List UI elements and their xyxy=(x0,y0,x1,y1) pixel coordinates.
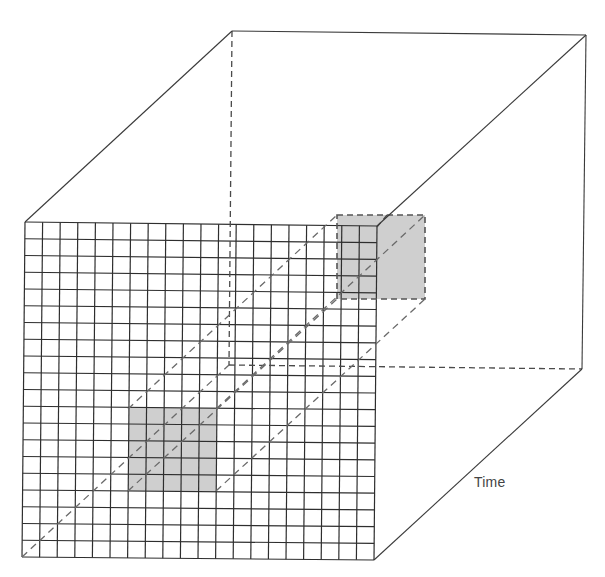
top-right-depth-edge xyxy=(377,35,586,226)
bottom-right-depth-edge xyxy=(374,369,582,560)
time-axis-label: Time xyxy=(474,474,505,490)
spatiotemporal-cube-diagram xyxy=(0,0,605,577)
back-right-edge xyxy=(582,35,586,369)
projection-line-top-right xyxy=(216,215,425,409)
back-top-edge xyxy=(232,31,586,35)
top-left-depth-edge xyxy=(25,31,232,222)
projection-line-bottom-right xyxy=(216,299,425,491)
front-face-grid xyxy=(22,222,377,560)
back-bottom-hidden-edge xyxy=(229,365,582,369)
